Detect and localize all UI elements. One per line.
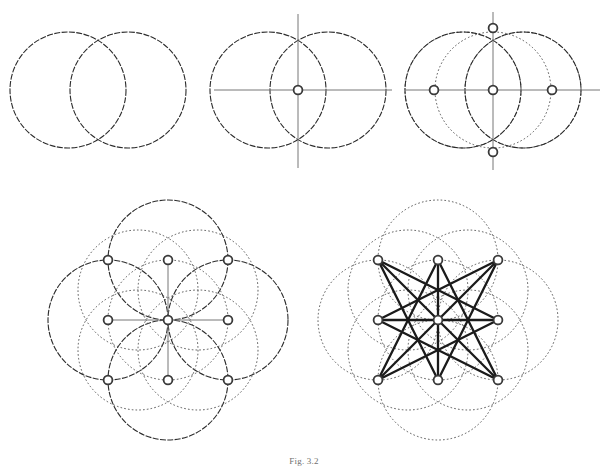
node-marker-north-east bbox=[494, 256, 503, 265]
node-marker-north-west bbox=[104, 256, 113, 265]
panel-4 bbox=[48, 200, 288, 440]
node-marker-west bbox=[430, 86, 439, 95]
node-marker-south-west bbox=[374, 376, 383, 385]
node-marker-south bbox=[434, 376, 443, 385]
node-marker-centre bbox=[164, 316, 173, 325]
construction-circle-solid-0 bbox=[10, 32, 126, 148]
node-marker-north-west bbox=[374, 256, 383, 265]
node-marker-centre bbox=[434, 316, 443, 325]
node-marker-centre bbox=[294, 86, 303, 95]
construction-circle-solid-1 bbox=[70, 32, 186, 148]
node-marker-east bbox=[548, 86, 557, 95]
node-marker-east bbox=[494, 316, 503, 325]
panel-3 bbox=[405, 12, 600, 170]
construction-canvas bbox=[0, 0, 608, 467]
node-marker-centre bbox=[489, 86, 498, 95]
node-marker-south-west bbox=[104, 376, 113, 385]
figure-caption: Fig. 3.2 bbox=[0, 456, 608, 467]
node-marker-south bbox=[164, 376, 173, 385]
node-marker-north bbox=[434, 256, 443, 265]
node-marker-north bbox=[489, 24, 498, 33]
node-marker-north-east bbox=[224, 256, 233, 265]
panel-2 bbox=[210, 14, 392, 168]
node-marker-north bbox=[164, 256, 173, 265]
node-marker-south-east bbox=[494, 376, 503, 385]
panel-1 bbox=[10, 32, 186, 148]
node-marker-west bbox=[104, 316, 113, 325]
node-marker-east bbox=[224, 316, 233, 325]
node-marker-south-east bbox=[224, 376, 233, 385]
panel-5 bbox=[318, 200, 558, 440]
node-marker-south bbox=[489, 148, 498, 157]
node-marker-west bbox=[374, 316, 383, 325]
construction-circle-dotted-7 bbox=[78, 290, 198, 410]
geometric-construction-figure: Fig. 3.2 bbox=[0, 0, 608, 467]
